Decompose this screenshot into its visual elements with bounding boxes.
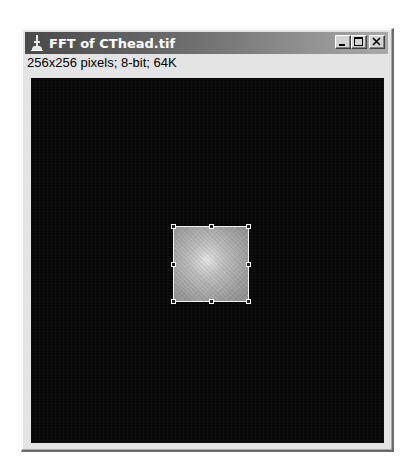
- close-icon: [370, 36, 384, 48]
- roi-handle-bottom-left[interactable]: [171, 299, 176, 304]
- roi-handle-middle-right[interactable]: [246, 262, 251, 267]
- window-controls: [335, 35, 385, 49]
- roi-fft-content: [174, 227, 248, 301]
- roi-handle-middle-left[interactable]: [171, 262, 176, 267]
- title-bar[interactable]: FFT of CThead.tif: [25, 32, 388, 54]
- minimize-button[interactable]: [335, 35, 351, 49]
- roi-handle-top-left[interactable]: [171, 224, 176, 229]
- microscope-icon: [29, 34, 45, 52]
- window-title: FFT of CThead.tif: [49, 36, 175, 51]
- roi-handle-top-right[interactable]: [246, 224, 251, 229]
- image-info-line: 256x256 pixels; 8-bit; 64K: [27, 55, 177, 70]
- maximize-icon: [352, 36, 366, 48]
- rectangle-roi-selection[interactable]: [173, 226, 249, 302]
- maximize-button[interactable]: [351, 35, 367, 49]
- roi-handle-top-center[interactable]: [209, 224, 214, 229]
- close-button[interactable]: [369, 35, 385, 49]
- roi-handle-bottom-center[interactable]: [209, 299, 214, 304]
- image-canvas[interactable]: [31, 78, 384, 443]
- image-window[interactable]: FFT of CThead.tif 256x256 pixels; 8-bit;…: [21, 28, 394, 452]
- roi-handle-bottom-right[interactable]: [246, 299, 251, 304]
- minimize-icon: [336, 36, 350, 48]
